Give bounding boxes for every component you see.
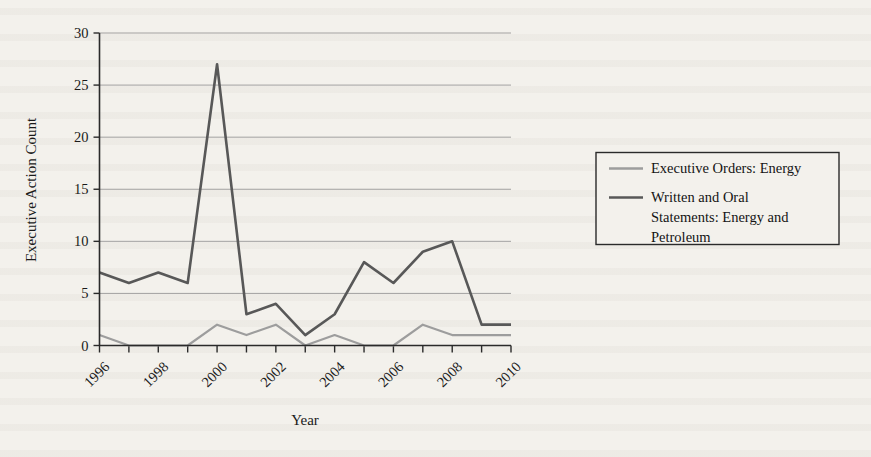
chart-svg: 051015202530 199619982000200220042006200…	[0, 0, 871, 457]
x-axis-title: Year	[291, 412, 319, 428]
y-tick-label: 5	[81, 285, 88, 301]
chart-legend: Executive Orders: EnergyWritten and Oral…	[596, 153, 839, 246]
legend-label-1: Petroleum	[651, 229, 711, 245]
y-tick-label: 25	[74, 77, 89, 93]
y-tick-label: 30	[74, 25, 89, 41]
y-tick-label: 10	[74, 233, 89, 249]
x-tick-label: 2004	[316, 358, 348, 390]
x-tick-label: 2010	[492, 358, 524, 390]
y-tick-label: 20	[74, 129, 89, 145]
x-axis-tick-labels: 19961998200020022004200620082010	[81, 358, 524, 390]
legend-label-0: Executive Orders: Energy	[651, 160, 802, 176]
x-tick-label: 2000	[198, 358, 230, 390]
x-tick-label: 2006	[375, 358, 407, 390]
y-axis-ticks	[94, 33, 100, 346]
legend-label-1: Written and Oral	[651, 189, 749, 205]
gridlines	[100, 33, 512, 293]
x-tick-label: 1998	[140, 358, 172, 390]
y-axis-tick-labels: 051015202530	[74, 25, 89, 354]
x-tick-label: 2008	[434, 358, 466, 390]
x-tick-label: 1996	[81, 358, 113, 390]
series-line-1	[100, 64, 512, 335]
y-axis-title: Executive Action Count	[23, 117, 39, 262]
y-tick-label: 0	[81, 338, 88, 354]
line-chart-figure: 051015202530 199619982000200220042006200…	[0, 0, 871, 457]
y-tick-label: 15	[74, 181, 89, 197]
legend-label-1: Statements: Energy and	[651, 209, 789, 225]
data-series-group	[100, 64, 512, 345]
x-tick-label: 2002	[257, 358, 289, 390]
